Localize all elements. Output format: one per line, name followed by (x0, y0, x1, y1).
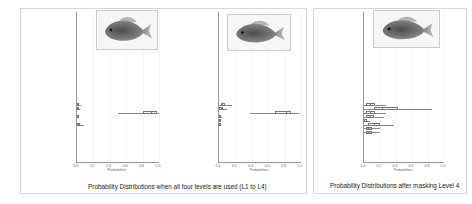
x-tick-label: 0.8 (425, 164, 430, 168)
x-tick-label: 0.4 (248, 164, 253, 168)
y-tick (76, 144, 78, 145)
y-tick (218, 136, 220, 137)
y-tick (218, 69, 220, 70)
y-tick (76, 148, 78, 149)
y-tick (76, 85, 78, 86)
y-tick (76, 57, 78, 58)
y-tick (76, 89, 78, 90)
y-tick (363, 85, 365, 86)
y-tick (218, 30, 220, 31)
y-tick (218, 57, 220, 58)
y-tick (363, 81, 365, 82)
y-tick (363, 61, 365, 62)
y-tick (363, 89, 365, 90)
y-tick (218, 101, 220, 102)
x-tick-label: 1.0 (441, 164, 446, 168)
y-tick (218, 85, 220, 86)
y-tick (218, 148, 220, 149)
median-line (374, 123, 375, 126)
y-tick (218, 65, 220, 66)
median-line (219, 123, 220, 126)
y-tick (76, 132, 78, 133)
y-tick (76, 140, 78, 141)
y-tick (363, 69, 365, 70)
y-tick (363, 50, 365, 51)
y-tick (363, 22, 365, 23)
y-tick (76, 46, 78, 47)
y-tick (363, 73, 365, 74)
fish-image (96, 10, 158, 50)
x-tick-label: 1.0 (298, 164, 303, 168)
x-axis-label: Probabilities (249, 168, 268, 172)
x-tick-label: 0.8 (139, 164, 144, 168)
y-tick (76, 136, 78, 137)
y-tick (218, 144, 220, 145)
y-tick (363, 148, 365, 149)
y-tick (363, 93, 365, 94)
y-tick (218, 46, 220, 47)
caption-all-levels: Probability Distributions when all four … (88, 183, 267, 190)
y-tick (363, 140, 365, 141)
median-line (78, 103, 79, 106)
median-line (382, 107, 383, 110)
gridline (93, 12, 94, 162)
y-tick (218, 14, 220, 15)
x-tick-label: 1.0 (156, 164, 161, 168)
y-tick (363, 30, 365, 31)
fish-icon (228, 15, 290, 50)
y-tick (218, 128, 220, 129)
y-tick (218, 38, 220, 39)
median-line (78, 123, 79, 126)
y-tick (363, 144, 365, 145)
y-tick (76, 128, 78, 129)
y-tick (218, 61, 220, 62)
y-tick (218, 140, 220, 141)
y-tick (76, 93, 78, 94)
y-tick (218, 152, 220, 153)
y-tick (76, 113, 78, 114)
x-tick-label: 0.0 (216, 164, 221, 168)
x-tick-label: 0.6 (123, 164, 128, 168)
y-tick (76, 152, 78, 153)
y-tick (218, 53, 220, 54)
median-line (151, 111, 152, 114)
x-tick-label: 0.4 (106, 164, 111, 168)
y-tick (363, 18, 365, 19)
y-tick (218, 93, 220, 94)
y-tick (218, 132, 220, 133)
y-tick (363, 46, 365, 47)
y-tick (76, 121, 78, 122)
y-tick (218, 42, 220, 43)
gridline (444, 12, 445, 162)
y-tick (76, 22, 78, 23)
x-tick-label: 0.2 (90, 164, 95, 168)
x-tick-label: 0.6 (409, 164, 414, 168)
y-tick (76, 18, 78, 19)
median-line (77, 115, 78, 118)
x-tick-label: 0.2 (232, 164, 237, 168)
y-tick (363, 77, 365, 78)
y-tick (363, 14, 365, 15)
x-tick-label: 0.6 (265, 164, 270, 168)
y-tick (363, 65, 365, 66)
y-tick (76, 26, 78, 27)
y-tick (218, 77, 220, 78)
x-tick-label: 0.0 (74, 164, 79, 168)
y-tick (363, 101, 365, 102)
y-tick (218, 160, 220, 161)
gridline (301, 12, 302, 162)
median-line (219, 115, 220, 118)
y-tick (76, 156, 78, 157)
median-line (368, 131, 369, 134)
median-line (370, 103, 371, 106)
y-tick (218, 26, 220, 27)
y-tick (76, 160, 78, 161)
x-tick-label: 0.0 (361, 164, 366, 168)
box (374, 107, 398, 110)
box (366, 111, 375, 114)
y-tick (76, 30, 78, 31)
y-tick (76, 81, 78, 82)
fish-image (227, 14, 291, 51)
median-line (286, 111, 287, 114)
y-tick (363, 42, 365, 43)
